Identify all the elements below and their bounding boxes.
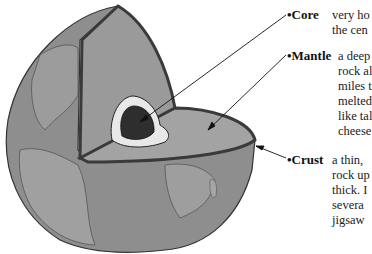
label-core: •Core (287, 8, 319, 22)
earth-cutaway-illustration (0, 0, 372, 254)
description-core: very ho the cen (332, 8, 370, 38)
description-crust: a thin, rock up thick. I severa jigsaw (332, 153, 370, 228)
description-mantle: a deep rock al miles t melted like tal c… (338, 49, 372, 139)
label-mantle: •Mantle (287, 49, 331, 63)
label-crust: •Crust (287, 153, 323, 167)
